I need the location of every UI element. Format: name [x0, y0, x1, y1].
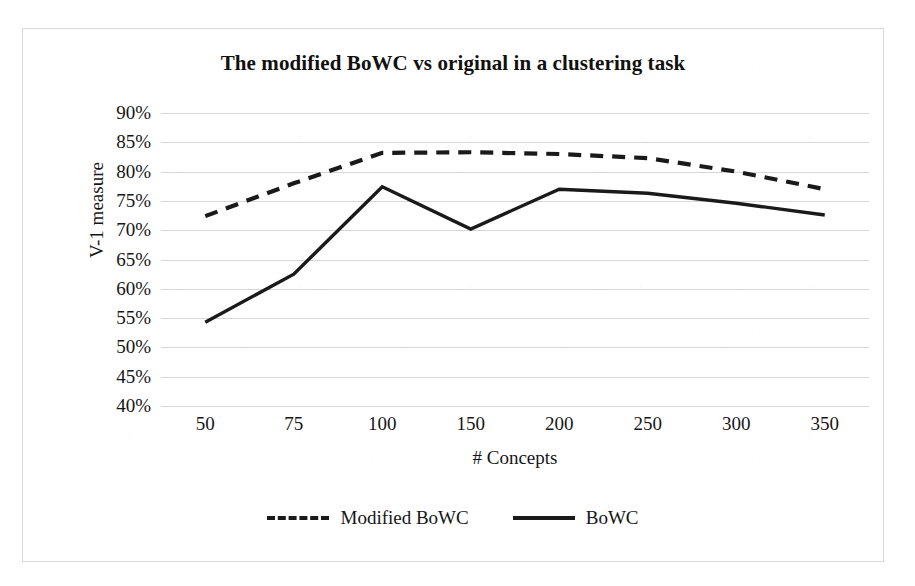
legend-entry: BoWC	[513, 507, 639, 529]
x-axis-tick-label: 50	[196, 413, 215, 435]
x-axis-tick-label: 75	[284, 413, 303, 435]
legend-entry: Modified BoWC	[267, 507, 468, 529]
y-axis-tick-label: 60%	[116, 278, 151, 300]
gridline	[161, 406, 869, 407]
x-axis-tick-label: 100	[368, 413, 397, 435]
y-axis-tick-label: 85%	[116, 131, 151, 153]
chart-legend: Modified BoWCBoWC	[23, 507, 883, 529]
legend-label: Modified BoWC	[340, 507, 468, 529]
y-axis-tick-label: 65%	[116, 249, 151, 271]
legend-label: BoWC	[586, 507, 639, 529]
plot-area	[161, 113, 869, 406]
x-axis-tick-labels: 5075100150200250300350	[161, 413, 869, 443]
series-line-modified-bowc	[205, 152, 825, 216]
x-axis-tick-label: 200	[545, 413, 574, 435]
series-line-bowc	[205, 187, 825, 322]
y-axis-tick-label: 90%	[116, 102, 151, 124]
legend-swatch-solid-icon	[513, 516, 575, 520]
y-axis-tick-label: 75%	[116, 190, 151, 212]
y-axis-tick-label: 80%	[116, 161, 151, 183]
series-lines	[161, 113, 869, 406]
x-axis-tick-label: 150	[457, 413, 486, 435]
y-axis-tick-label: 50%	[116, 336, 151, 358]
legend-swatch-dashed-icon	[267, 516, 329, 520]
y-axis-tick-label: 55%	[116, 307, 151, 329]
x-axis-tick-label: 350	[811, 413, 840, 435]
x-axis-title: # Concepts	[161, 447, 869, 469]
y-axis-tick-label: 70%	[116, 219, 151, 241]
x-axis-tick-label: 250	[634, 413, 663, 435]
chart-title: The modified BoWC vs original in a clust…	[23, 51, 883, 76]
y-axis-tick-labels: 90%85%80%75%70%65%60%55%50%45%40%	[83, 113, 157, 406]
y-axis-tick-label: 45%	[116, 366, 151, 388]
x-axis-tick-label: 300	[722, 413, 751, 435]
figure-frame: The modified BoWC vs original in a clust…	[22, 28, 884, 562]
y-axis-tick-label: 40%	[116, 395, 151, 417]
